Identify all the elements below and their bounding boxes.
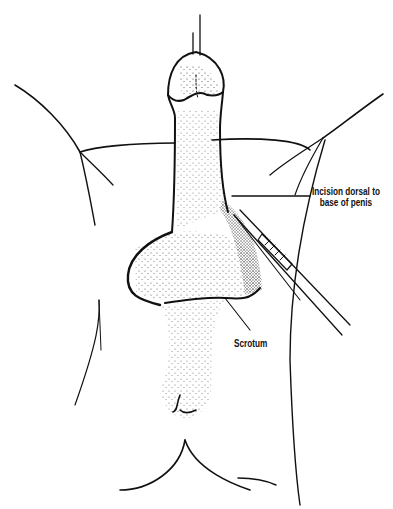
right-thigh-outline [212, 94, 383, 505]
anatomy-drawing [0, 0, 393, 509]
incision-label-line2: base of penis [312, 197, 380, 208]
stipple-shading [135, 64, 262, 418]
incision-label: Incision dorsal to base of penis [312, 186, 380, 208]
scrotum-label: Scrotum [234, 338, 267, 349]
traction-suture [193, 15, 200, 55]
signature-stroke [238, 478, 276, 485]
incision-label-line1: Incision dorsal to [312, 186, 380, 197]
surgical-illustration: Incision dorsal to base of penis Scrotum [0, 0, 393, 509]
